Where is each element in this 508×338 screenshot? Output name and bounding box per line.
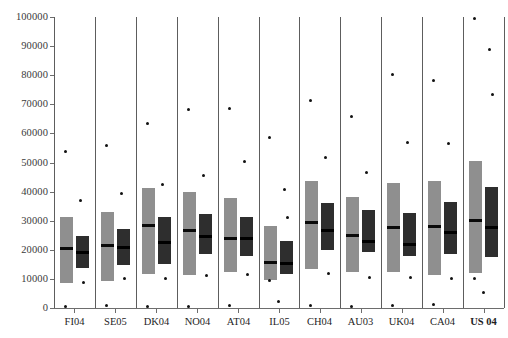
y-axis-tick-label: 90000 bbox=[0, 41, 48, 52]
y-axis-tick-label: 100000 bbox=[0, 12, 48, 23]
range-bar-light bbox=[60, 217, 73, 283]
range-bar-light bbox=[305, 181, 318, 269]
range-bar-dark bbox=[199, 214, 212, 254]
median-line-dark bbox=[403, 243, 416, 246]
range-bar-light bbox=[183, 192, 196, 275]
outlier-point bbox=[243, 160, 246, 163]
median-line-light bbox=[387, 226, 400, 229]
median-line-light bbox=[101, 244, 114, 247]
median-line-light bbox=[264, 261, 277, 264]
x-axis-category-label-uk04: UK04 bbox=[381, 316, 422, 327]
range-bar-dark bbox=[321, 203, 334, 250]
x-axis-category-label-il05: IL05 bbox=[259, 316, 300, 327]
median-line-dark bbox=[240, 237, 253, 240]
x-axis-tick bbox=[156, 309, 157, 313]
outlier-point bbox=[309, 99, 312, 102]
outlier-point bbox=[406, 141, 409, 144]
median-line-dark bbox=[117, 246, 130, 249]
outlier-point bbox=[391, 304, 394, 307]
group-separator bbox=[299, 17, 300, 308]
outlier-point bbox=[491, 93, 494, 96]
range-bar-light bbox=[264, 226, 277, 280]
x-axis-tick bbox=[197, 309, 198, 313]
range-bar-dark bbox=[403, 213, 416, 256]
median-line-light bbox=[183, 229, 196, 232]
range-bar-dark bbox=[444, 202, 457, 254]
outlier-point bbox=[228, 107, 231, 110]
outlier-point bbox=[324, 156, 327, 159]
group-separator bbox=[422, 17, 423, 308]
median-line-dark bbox=[485, 226, 498, 229]
x-axis-category-label-au03: AU03 bbox=[340, 316, 381, 327]
x-axis-category-label-ch04: CH04 bbox=[299, 316, 340, 327]
outlier-point bbox=[368, 276, 371, 279]
median-line-dark bbox=[158, 241, 171, 244]
outlier-point bbox=[488, 48, 491, 51]
outlier-point bbox=[450, 277, 453, 280]
y-axis-tick-label: 80000 bbox=[0, 70, 48, 81]
x-axis-category-label-dk04: DK04 bbox=[136, 316, 177, 327]
median-line-light bbox=[224, 237, 237, 240]
group-separator bbox=[177, 17, 178, 308]
outlier-point bbox=[432, 79, 435, 82]
median-line-dark bbox=[76, 251, 89, 254]
group-separator bbox=[95, 17, 96, 308]
outlier-point bbox=[202, 174, 205, 177]
x-axis-tick bbox=[320, 309, 321, 313]
x-axis-tick bbox=[238, 309, 239, 313]
x-axis-tick bbox=[115, 309, 116, 313]
y-axis-tick-label: 30000 bbox=[0, 216, 48, 227]
median-line-light bbox=[346, 234, 359, 237]
outlier-point bbox=[283, 188, 286, 191]
group-separator bbox=[54, 17, 55, 308]
outlier-point bbox=[105, 144, 108, 147]
y-axis-tick-label: 50000 bbox=[0, 158, 48, 169]
outlier-point bbox=[391, 73, 394, 76]
outlier-point bbox=[268, 279, 271, 282]
outlier-point bbox=[286, 216, 289, 219]
y-axis-tick-label: 70000 bbox=[0, 99, 48, 110]
outlier-point bbox=[164, 277, 167, 280]
outlier-point bbox=[146, 305, 149, 308]
x-axis-tick bbox=[279, 309, 280, 313]
outlier-point bbox=[327, 272, 330, 275]
outlier-point bbox=[277, 300, 280, 303]
x-axis-tick bbox=[361, 309, 362, 313]
median-line-light bbox=[469, 219, 482, 222]
range-bar-light bbox=[142, 188, 155, 274]
outlier-point bbox=[482, 291, 485, 294]
median-line-dark bbox=[362, 240, 375, 243]
y-axis-tick-label: 20000 bbox=[0, 245, 48, 256]
outlier-point bbox=[120, 192, 123, 195]
range-bar-light bbox=[428, 181, 441, 275]
group-separator bbox=[381, 17, 382, 308]
outlier-point bbox=[123, 277, 126, 280]
outlier-point bbox=[228, 304, 231, 307]
outlier-point bbox=[64, 305, 67, 308]
x-axis-tick bbox=[402, 309, 403, 313]
outlier-point bbox=[268, 136, 271, 139]
x-axis-category-label-at04: AT04 bbox=[218, 316, 259, 327]
x-axis-tick bbox=[74, 309, 75, 313]
x-axis-category-label-ca04: CA04 bbox=[422, 316, 463, 327]
outlier-point bbox=[187, 108, 190, 111]
x-axis-tick bbox=[484, 309, 485, 313]
group-separator bbox=[463, 17, 464, 308]
outlier-point bbox=[365, 171, 368, 174]
median-line-light bbox=[60, 247, 73, 250]
range-bar-dark bbox=[362, 210, 375, 252]
range-bar-chart: 0100002000030000400005000060000700008000… bbox=[0, 0, 508, 338]
outlier-point bbox=[432, 303, 435, 306]
outlier-point bbox=[205, 274, 208, 277]
range-bar-dark bbox=[280, 241, 293, 274]
median-line-dark bbox=[321, 229, 334, 232]
median-line-light bbox=[428, 225, 441, 228]
median-line-light bbox=[305, 221, 318, 224]
median-line-dark bbox=[280, 262, 293, 265]
outlier-point bbox=[350, 115, 353, 118]
outlier-point bbox=[161, 183, 164, 186]
range-bar-light bbox=[469, 161, 482, 273]
y-axis-tick-label: 40000 bbox=[0, 187, 48, 198]
x-axis-category-label-se05: SE05 bbox=[95, 316, 136, 327]
group-separator bbox=[218, 17, 219, 308]
